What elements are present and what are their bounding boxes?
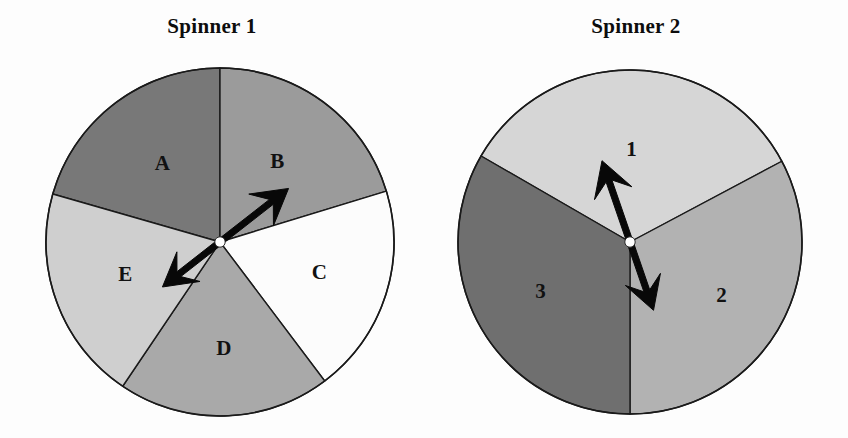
sector-label-C: C [312,260,327,284]
sector-label-E: E [118,262,132,286]
spinner-1-title: Spinner 1 [0,14,424,39]
pointer-hub [215,237,225,247]
sector-label-2: 2 [716,283,727,307]
spinner-1-wheel[interactable]: ABCDE [0,58,424,430]
spinner-2-wheel[interactable]: 123 [424,58,848,430]
spinner-1-panel: Spinner 1 ABCDE [0,0,424,438]
sector-label-1: 1 [626,137,637,161]
sector-label-D: D [216,336,231,360]
spinner-2-title: Spinner 2 [424,14,848,39]
spinners-figure: Spinner 1 ABCDE Spinner 2 123 [0,0,848,438]
sector-label-3: 3 [535,279,546,303]
spinner-2-panel: Spinner 2 123 [424,0,848,438]
sector-label-A: A [155,151,171,175]
sector-label-B: B [270,149,284,173]
pointer-hub [625,237,635,247]
